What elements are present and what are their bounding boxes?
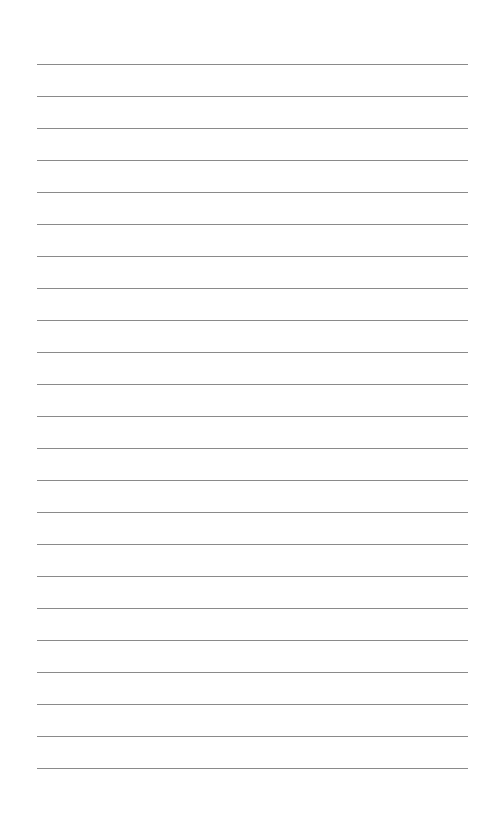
ruled-line bbox=[37, 640, 468, 641]
ruled-line bbox=[37, 256, 468, 257]
ruled-line bbox=[37, 576, 468, 577]
ruled-line bbox=[37, 704, 468, 705]
ruled-line bbox=[37, 736, 468, 737]
ruled-line bbox=[37, 192, 468, 193]
ruled-line bbox=[37, 416, 468, 417]
lined-paper-page bbox=[0, 0, 487, 817]
ruled-line bbox=[37, 448, 468, 449]
ruled-line bbox=[37, 768, 468, 769]
ruled-line bbox=[37, 384, 468, 385]
ruled-line bbox=[37, 96, 468, 97]
ruled-line bbox=[37, 480, 468, 481]
ruled-line bbox=[37, 128, 468, 129]
ruled-line bbox=[37, 512, 468, 513]
ruled-line bbox=[37, 672, 468, 673]
ruled-line bbox=[37, 608, 468, 609]
ruled-line bbox=[37, 288, 468, 289]
ruled-line bbox=[37, 160, 468, 161]
ruled-line bbox=[37, 64, 468, 65]
ruled-line bbox=[37, 224, 468, 225]
ruled-line bbox=[37, 320, 468, 321]
ruled-line bbox=[37, 352, 468, 353]
ruled-line bbox=[37, 544, 468, 545]
